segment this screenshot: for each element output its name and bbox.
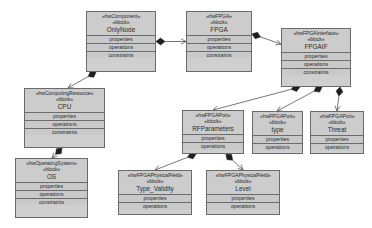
block-compartment-properties: properties — [282, 53, 350, 61]
block-compartment-operations: operations — [253, 144, 302, 151]
block-name: RFParameters — [184, 125, 242, 133]
block-name: OnlyNode — [88, 26, 154, 34]
block-onlynode[interactable]: «hwComponent»«block»OnlyNodepropertiesop… — [86, 11, 156, 72]
edge-line — [261, 37, 281, 44]
edge-line — [277, 91, 314, 111]
block-compartment-properties: properties — [119, 195, 191, 203]
block-threat[interactable]: «hwFPGAPort»«block»Threatpropertiesopera… — [310, 111, 364, 154]
edge-line — [233, 160, 243, 170]
composition-edge-fpgaif-rfparameters — [213, 85, 300, 111]
block-header: «hwFPGAPhysicalField»«block»Level — [207, 171, 279, 195]
block-compartment-properties: properties — [311, 136, 363, 144]
block-name: Type_Validity — [120, 185, 190, 193]
block-compartment-constraints: constraints — [25, 129, 104, 136]
block-name: Threat — [312, 126, 362, 134]
block-compartment-operations: operations — [282, 61, 350, 69]
block-compartment-constraints: constraints — [87, 52, 155, 59]
block-compartment-constraints: constraints — [187, 52, 251, 59]
block-name: type — [254, 126, 301, 134]
block-typevalidity[interactable]: «hwFPGAPhysicalField»«block»Type_Validit… — [118, 170, 192, 215]
block-header: «hwFPGAPort»«block»Threat — [311, 112, 363, 136]
uml-diagram-canvas: «hwComponent»«block»OnlyNodepropertiesop… — [0, 0, 372, 228]
block-compartment-operations: operations — [87, 44, 155, 52]
block-compartment-operations: operations — [25, 121, 104, 129]
block-rfparameters[interactable]: «hwFPGAPort»«block»RFParameterspropertie… — [182, 110, 244, 154]
block-header: «hwComponent»«block»OnlyNode — [87, 12, 155, 36]
block-header: «hwOperatingSystem»«block»OS — [16, 159, 87, 183]
composition-diamond — [314, 86, 322, 92]
block-compartment-operations: operations — [183, 143, 243, 150]
block-compartment-constraints: constraints — [16, 199, 87, 206]
block-compartment-properties: properties — [25, 113, 104, 121]
block-header: «hwFPGAPort»«block»type — [253, 112, 302, 136]
block-header: «hwFPGAPort»«block»RFParameters — [183, 111, 243, 135]
block-header: «hwFPGA»«block»FPGA — [187, 12, 251, 36]
block-compartment-operations: operations — [187, 44, 251, 52]
composition-diamond — [252, 32, 261, 38]
block-compartment-operations: operations — [207, 203, 279, 210]
block-compartment-properties: properties — [183, 135, 243, 143]
composition-edge-onlynode-fpga — [156, 38, 186, 45]
block-compartment-properties: properties — [87, 36, 155, 44]
block-header: «hwFPGAPhysicalField»«block»Type_Validit… — [119, 171, 191, 195]
composition-edge-fpgaif-type — [277, 86, 322, 111]
block-compartment-operations: operations — [16, 191, 87, 199]
composition-edge-onlynode-cpu — [68, 71, 96, 88]
block-os[interactable]: «hwOperatingSystem»«block»OSpropertiesop… — [15, 158, 88, 218]
block-name: FPGA — [188, 26, 250, 34]
composition-edge-fpgaif-threat — [335, 87, 343, 111]
block-header: «hwComputingResource»«block»CPU — [25, 89, 104, 113]
composition-diamond — [336, 87, 343, 96]
block-name: CPU — [26, 103, 103, 111]
block-compartment-operations: operations — [311, 144, 363, 151]
block-compartment-constraints: constraints — [282, 69, 350, 76]
edge-line — [213, 89, 291, 110]
block-fpga[interactable]: «hwFPGA»«block»FPGApropertiesoperationsc… — [186, 11, 252, 72]
block-header: «hwFPGAInterface»«block»FPGAIF — [282, 29, 350, 53]
edge-line — [337, 96, 339, 111]
composition-diamond — [226, 154, 233, 160]
composition-edge-rfparameters-typevalidity — [155, 152, 196, 170]
composition-edge-fpga-fpgaif — [252, 32, 281, 45]
composition-diamond — [88, 71, 96, 77]
block-cpu[interactable]: «hwComputingResource»«block»CPUpropertie… — [24, 88, 105, 148]
block-name: OS — [17, 173, 86, 181]
edge-line — [68, 76, 88, 88]
edge-line — [155, 157, 188, 170]
composition-diamond — [156, 38, 165, 45]
block-level[interactable]: «hwFPGAPhysicalField»«block»Levelpropert… — [206, 170, 280, 215]
block-compartment-properties: properties — [187, 36, 251, 44]
block-name: FPGAIF — [283, 43, 349, 51]
block-compartment-properties: properties — [207, 195, 279, 203]
block-type[interactable]: «hwFPGAPort»«block»typepropertiesoperati… — [252, 111, 303, 154]
composition-diamond — [56, 148, 62, 154]
block-name: Level — [208, 185, 278, 193]
composition-edge-rfparameters-level — [226, 154, 243, 170]
block-compartment-properties: properties — [253, 136, 302, 144]
block-compartment-properties: properties — [16, 183, 87, 191]
composition-edge-cpu-os — [52, 148, 62, 158]
block-fpgaif[interactable]: «hwFPGAInterface»«block»FPGAIFproperties… — [281, 28, 351, 87]
block-compartment-operations: operations — [119, 203, 191, 210]
